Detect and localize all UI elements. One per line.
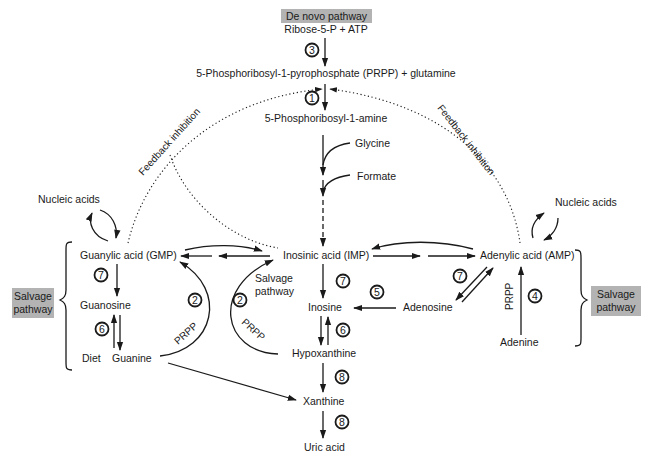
gmp-node: Guanylic acid (GMP) — [80, 249, 177, 261]
feedback-inhibition-left-label: Feedback inhibition — [136, 106, 202, 177]
uric-acid-node: Uric acid — [304, 441, 345, 453]
formate-node: Formate — [357, 170, 396, 182]
glycine-join-curve — [323, 143, 350, 165]
salvage-right-label-1: Salvage — [597, 288, 635, 300]
adenosine-node: Adenosine — [403, 301, 453, 313]
salvage-left-label-2: pathway — [13, 303, 53, 315]
ribose-atp-node: Ribose-5-P + ATP — [284, 23, 367, 35]
feedback-inhibition-right-label: Feedback inhibition — [435, 102, 497, 177]
enzyme-step-8b: 8 — [339, 416, 345, 428]
hypoxanthine-node: Hypoxanthine — [292, 347, 356, 359]
nucleic-acids-left-node: Nucleic acids — [38, 193, 100, 205]
enzyme-step-1: 1 — [309, 92, 315, 104]
feedback-arc-imp — [170, 155, 278, 248]
prpp-node: 5-Phosphoribosyl-1-pyrophosphate (PRPP) … — [196, 67, 456, 79]
diet-label: Diet — [82, 352, 101, 364]
salvage-mid-label-2: pathway — [255, 285, 295, 297]
arrow-gmp-to-imp-top — [185, 246, 262, 251]
adenine-node: Adenine — [500, 336, 539, 348]
guanosine-node: Guanosine — [80, 299, 131, 311]
arrow-guanine-to-gmp-salvage — [160, 262, 210, 356]
xanthine-node: Xanthine — [303, 395, 345, 407]
enzyme-step-7-amp: 7 — [457, 270, 463, 282]
enzyme-step-8a: 8 — [339, 371, 345, 383]
de-novo-pathway-label: De novo pathway — [286, 10, 368, 22]
arrow-amp-to-nucleic — [532, 213, 544, 238]
imp-node: Inosinic acid (IMP) — [283, 249, 369, 261]
right-brace — [575, 250, 587, 346]
enzyme-step-6-inosine: 6 — [340, 324, 346, 336]
enzyme-step-2-right: 2 — [237, 294, 243, 306]
left-brace — [60, 242, 72, 370]
salvage-left-label-1: Salvage — [14, 290, 52, 302]
arrow-nucleic-to-amp — [544, 218, 558, 240]
enzyme-step-5: 5 — [374, 286, 380, 298]
enzyme-step-2-left: 2 — [192, 294, 198, 306]
arrow-gmp-to-nucleic — [91, 213, 108, 241]
enzyme-step-4: 4 — [532, 290, 538, 302]
prpp-right-label: PRPP — [504, 282, 515, 310]
arrow-guanine-to-xanthine — [168, 363, 296, 400]
inosine-node: Inosine — [308, 301, 342, 313]
salvage-mid-label-1: Salvage — [255, 272, 293, 284]
arrow-amp-to-imp — [372, 242, 473, 249]
salvage-right-label-2: pathway — [596, 301, 636, 313]
purine-metabolism-diagram: De novo pathway Ribose-5-P + ATP 3 5-Pho… — [0, 0, 652, 460]
enzyme-step-7-imp: 7 — [340, 275, 346, 287]
enzyme-step-3: 3 — [309, 44, 315, 56]
nucleic-acids-right-node: Nucleic acids — [555, 196, 617, 208]
prpp-mid-label: PRPP — [240, 316, 268, 343]
formate-join-curve — [323, 175, 350, 192]
phosphoribosyl-amine-node: 5-Phosphoribosyl-1-amine — [265, 112, 388, 124]
enzyme-step-6-guanosine: 6 — [99, 323, 105, 335]
amp-node: Adenylic acid (AMP) — [480, 249, 575, 261]
guanine-node: Guanine — [112, 352, 152, 364]
prpp-left-label: PRPP — [172, 320, 200, 347]
arrow-nucleic-to-gmp — [100, 210, 116, 238]
enzyme-step-7-gmp: 7 — [98, 269, 104, 281]
glycine-node: Glycine — [355, 137, 390, 149]
